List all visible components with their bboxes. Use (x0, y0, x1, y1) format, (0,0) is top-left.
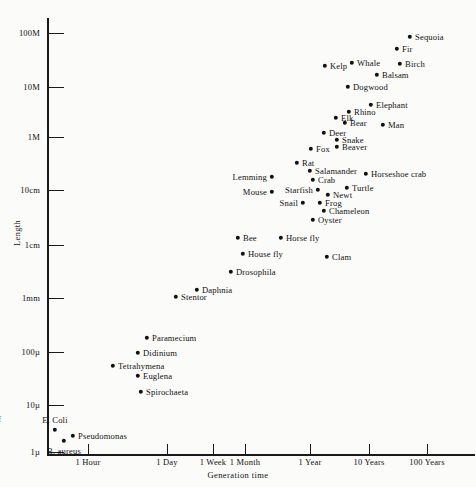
y-tick-label: 10M (23, 82, 40, 92)
data-point-label: Fir (402, 44, 412, 54)
data-point-label: Mouse (243, 187, 267, 197)
y-tick-mark (49, 352, 64, 353)
data-point-label: Dogwood (353, 82, 388, 92)
data-point (270, 175, 274, 179)
x-tick-label: 1 Month (230, 457, 260, 467)
data-point-label: Didinium (143, 348, 177, 358)
y-tick-mark (49, 405, 64, 406)
data-point-label: B. aureus (47, 446, 81, 456)
y-tick-label: 1µ (30, 447, 40, 457)
data-point (381, 123, 385, 127)
data-point-label: Paramecium (152, 333, 196, 343)
x-tick-label: 100 Years (409, 457, 444, 467)
data-point (62, 439, 66, 443)
y-tick-label: 1mm (22, 293, 40, 303)
y-axis-title: Length (12, 203, 22, 263)
data-point-label: Horseshoe crab (371, 169, 426, 179)
data-point (316, 188, 320, 192)
data-point-label: Birch (405, 59, 425, 69)
data-point-label: Pseudomonas (78, 431, 127, 441)
data-point (229, 270, 233, 274)
x-tick-label: 1 Day (156, 457, 178, 467)
data-point-label: Sequoia (415, 32, 444, 42)
data-point (139, 390, 143, 394)
data-point-label: Rhino (354, 107, 376, 117)
data-point (343, 121, 347, 125)
data-point-label: Man (388, 120, 404, 130)
data-point (311, 218, 315, 222)
x-tick-mark (427, 444, 428, 455)
data-point (308, 169, 312, 173)
x-axis-title: Generation time (0, 470, 476, 480)
data-point-label: Kelp (330, 61, 347, 71)
data-point (136, 351, 140, 355)
data-point (318, 201, 322, 205)
y-tick-mark (49, 245, 64, 246)
y-tick-mark (49, 298, 64, 299)
scatter-plot: 100M10M1M10cm1cm1mm100µ10µ1µ 1 Hour1 Day… (0, 0, 476, 487)
data-point (311, 178, 315, 182)
data-point-label: Beaver (342, 142, 367, 152)
data-point (111, 364, 115, 368)
x-tick-mark (245, 444, 246, 455)
x-tick-label: 1 Year (299, 457, 322, 467)
x-tick-label: 10 Years (354, 457, 385, 467)
y-tick-label: 100µ (22, 347, 40, 357)
data-point (326, 193, 330, 197)
y-tick-mark (49, 87, 64, 88)
data-point (408, 35, 412, 39)
data-point (241, 252, 245, 256)
data-point (236, 236, 240, 240)
x-tick-mark (310, 444, 311, 455)
data-point (301, 201, 305, 205)
data-point-label: Turtle (352, 183, 374, 193)
data-point-label: Bear (350, 118, 367, 128)
data-point (322, 209, 326, 213)
data-point-label: Balsam (382, 70, 409, 80)
data-point-label: E. Coli (42, 415, 67, 425)
data-point (364, 172, 368, 176)
data-point-label: Whale (357, 58, 380, 68)
data-point (270, 190, 274, 194)
y-tick-label: 1M (28, 132, 40, 142)
data-point (325, 255, 329, 259)
data-point (375, 73, 379, 77)
data-point-label: Lemming (233, 172, 267, 182)
x-tick-mark (88, 444, 89, 455)
data-point (395, 47, 399, 51)
x-tick-mark (213, 444, 214, 455)
data-point (53, 428, 57, 432)
data-point (174, 295, 178, 299)
data-point (346, 85, 350, 89)
data-point-label: Oyster (318, 215, 342, 225)
data-point (334, 116, 338, 120)
x-tick-label: 1 Week (200, 457, 227, 467)
data-point-label: Rat (302, 158, 314, 168)
data-point (136, 374, 140, 378)
left-edge-text-fragment: of (0, 414, 1, 424)
data-point (145, 336, 149, 340)
data-point-label: Fox (316, 144, 330, 154)
data-point-label: Spirochaeta (146, 387, 188, 397)
data-point (350, 61, 354, 65)
y-tick-mark (49, 137, 64, 138)
data-point-label: Clam (332, 252, 351, 262)
x-axis-line (47, 454, 475, 456)
y-tick-label: 100M (19, 28, 40, 38)
data-point-label: Euglena (143, 371, 172, 381)
data-point (71, 434, 75, 438)
x-tick-mark (167, 444, 168, 455)
data-point-label: Snail (280, 198, 298, 208)
y-tick-label: 10µ (26, 400, 40, 410)
data-point-label: Drosophila (236, 267, 276, 277)
data-point (309, 147, 313, 151)
data-point-label: Stentor (181, 292, 207, 302)
y-tick-mark (49, 190, 64, 191)
x-tick-mark (369, 444, 370, 455)
data-point-label: Starfish (285, 185, 313, 195)
data-point (323, 64, 327, 68)
data-point-label: Tetrahymena (118, 361, 164, 371)
data-point (322, 131, 326, 135)
data-point-label: Elephant (376, 100, 408, 110)
y-axis-line (47, 18, 49, 455)
